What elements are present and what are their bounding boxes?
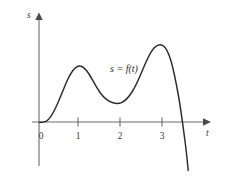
graph-figure: 0 1 2 3 s t s = f(t) [0,0,226,176]
function-graph-svg: 0 1 2 3 s t s = f(t) [0,0,226,176]
x-axis-label: t [206,128,209,138]
x-tick-label-2: 2 [118,131,123,141]
y-axis-label: s [27,10,31,20]
x-tick-label-1: 1 [76,131,81,141]
x-tick-label-3: 3 [160,131,165,141]
x-axis-arrowhead [203,118,211,125]
x-tick-label-0: 0 [39,131,44,141]
y-axis-arrowhead [35,13,42,21]
curve-equation-label: s = f(t) [110,63,139,75]
